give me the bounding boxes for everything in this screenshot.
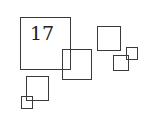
square-bottom-left-tiny: [21, 96, 33, 109]
square-middle: [62, 49, 92, 80]
diagram-canvas: 17: [0, 0, 152, 125]
square-top-right: [97, 26, 121, 51]
square-right-smaller: [126, 47, 138, 60]
square-label: 17: [30, 24, 54, 43]
